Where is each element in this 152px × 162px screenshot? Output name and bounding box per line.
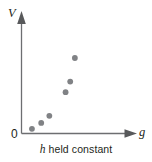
x-axis xyxy=(22,129,138,138)
figure-caption: h held constant xyxy=(0,143,152,155)
y-axis-arrowhead xyxy=(17,11,26,24)
data-points xyxy=(29,55,78,132)
caption-text: held constant xyxy=(46,143,113,155)
scatter-plot-figure: V g 0 h held constant xyxy=(0,0,152,162)
x-axis-label: g xyxy=(139,126,145,139)
origin-tick-label: 0 xyxy=(11,128,18,140)
data-point xyxy=(72,55,78,61)
data-point xyxy=(63,89,69,95)
data-point xyxy=(67,79,73,85)
data-point xyxy=(29,126,35,132)
data-point xyxy=(38,120,44,126)
y-axis-label: V xyxy=(8,7,16,20)
data-point xyxy=(46,113,52,119)
plot-canvas xyxy=(0,0,152,162)
x-axis-arrowhead xyxy=(125,129,138,138)
y-axis xyxy=(17,11,26,134)
